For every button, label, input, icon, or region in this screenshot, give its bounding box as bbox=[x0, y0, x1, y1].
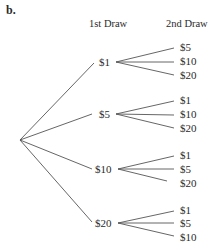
second-draw-node: $5 bbox=[180, 163, 191, 175]
second-draw-node: $10 bbox=[180, 108, 197, 120]
first-draw-node-5: $5 bbox=[99, 108, 110, 120]
second-draw-node: $10 bbox=[180, 55, 197, 67]
second-draw-node: $20 bbox=[180, 69, 197, 81]
second-draw-node: $5 bbox=[180, 217, 191, 229]
second-draw-node: $5 bbox=[180, 41, 191, 53]
second-draw-node: $1 bbox=[180, 94, 191, 106]
second-draw-node: $10 bbox=[180, 231, 197, 243]
first-draw-node-20: $20 bbox=[95, 217, 112, 229]
first-draw-node-10: $10 bbox=[95, 163, 112, 175]
second-draw-node: $1 bbox=[180, 149, 191, 161]
second-draw-node: $20 bbox=[180, 122, 197, 134]
first-draw-node-1: $1 bbox=[99, 56, 110, 68]
second-draw-node: $20 bbox=[180, 177, 197, 189]
second-draw-node: $1 bbox=[180, 204, 191, 216]
